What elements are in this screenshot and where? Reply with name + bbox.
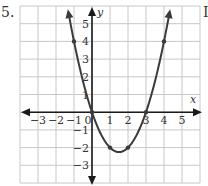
svg-text:5: 5 bbox=[82, 18, 89, 31]
grid bbox=[20, 6, 200, 183]
parabola-chart: xy−3−2−101234554321−1−2−3 bbox=[0, 0, 208, 186]
axes bbox=[21, 7, 202, 185]
svg-text:−1: −1 bbox=[73, 124, 89, 137]
svg-text:−2: −2 bbox=[48, 114, 64, 127]
svg-text:2: 2 bbox=[125, 114, 132, 127]
svg-text:y: y bbox=[96, 6, 104, 19]
svg-text:4: 4 bbox=[82, 35, 89, 48]
svg-text:−2: −2 bbox=[73, 142, 89, 155]
svg-text:−3: −3 bbox=[30, 114, 46, 127]
svg-text:4: 4 bbox=[161, 114, 168, 127]
svg-text:1: 1 bbox=[107, 114, 114, 127]
svg-text:−3: −3 bbox=[73, 159, 89, 172]
svg-text:x: x bbox=[190, 93, 197, 106]
svg-text:5: 5 bbox=[179, 114, 186, 127]
svg-text:3: 3 bbox=[82, 53, 89, 66]
